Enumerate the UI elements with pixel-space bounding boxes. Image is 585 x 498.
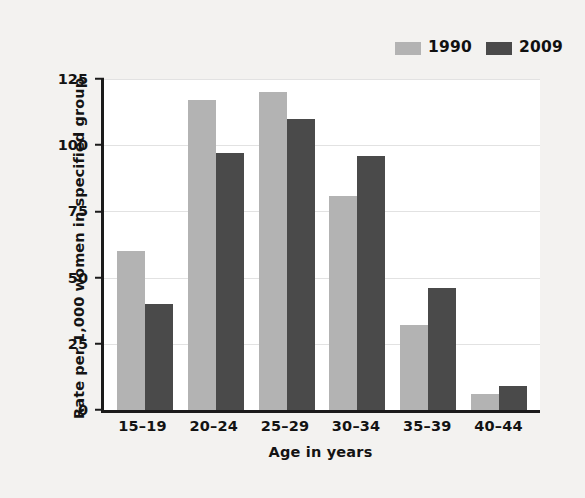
bar-2009-40-44[interactable] — [499, 386, 527, 410]
y-axis-tick-label: 100 — [58, 138, 95, 153]
bar-2009-15-19[interactable] — [145, 304, 173, 410]
bar-group — [181, 79, 252, 410]
bar-2009-25-29[interactable] — [287, 119, 315, 410]
plot-area: 0255075100125 — [101, 79, 540, 413]
bar-1990-30-34[interactable] — [329, 196, 357, 410]
y-axis-tick-mark — [95, 78, 104, 80]
y-axis-tick-mark — [95, 277, 104, 279]
y-axis-tick: 0 — [78, 403, 104, 418]
bar-2009-30-34[interactable] — [357, 156, 385, 410]
legend-label-1990: 1990 — [428, 40, 472, 56]
x-axis-tick-label: 20–24 — [178, 418, 249, 434]
y-axis-tick-mark — [95, 343, 104, 345]
bars-layer — [104, 79, 540, 410]
bar-group — [322, 79, 393, 410]
bar-group — [463, 79, 534, 410]
bar-2009-20-24[interactable] — [216, 153, 244, 410]
y-axis-tick-label: 50 — [68, 270, 95, 285]
y-axis-tick: 100 — [58, 138, 104, 153]
y-axis-tick: 25 — [68, 337, 104, 352]
y-axis-tick: 75 — [68, 204, 104, 219]
y-axis-tick-label: 75 — [68, 204, 95, 219]
x-axis-tick-label: 35–39 — [392, 418, 463, 434]
bar-group — [251, 79, 322, 410]
x-axis-tick-label: 25–29 — [249, 418, 320, 434]
legend-entry-1990: 1990 — [395, 40, 472, 56]
x-axis-title: Age in years — [101, 444, 540, 460]
x-axis-tick-label: 15–19 — [107, 418, 178, 434]
y-axis-tick-label: 25 — [68, 337, 95, 352]
y-axis-tick-label: 0 — [78, 403, 95, 418]
bar-1990-15-19[interactable] — [117, 251, 145, 410]
legend-swatch-1990 — [395, 42, 421, 55]
y-axis-tick-mark — [95, 409, 104, 411]
legend-swatch-2009 — [486, 42, 512, 55]
bar-1990-40-44[interactable] — [471, 394, 499, 410]
y-axis-tick: 125 — [58, 72, 104, 87]
bar-group — [393, 79, 464, 410]
legend-label-2009: 2009 — [519, 40, 563, 56]
bar-2009-35-39[interactable] — [428, 288, 456, 410]
bar-1990-20-24[interactable] — [188, 100, 216, 410]
y-axis-tick-mark — [95, 210, 104, 212]
x-axis-tick-label: 40–44 — [463, 418, 534, 434]
y-axis-tick-label: 125 — [58, 72, 95, 87]
x-axis-tick-label: 30–34 — [321, 418, 392, 434]
bar-1990-25-29[interactable] — [259, 92, 287, 410]
chart-legend: 1990 2009 — [395, 37, 563, 59]
y-axis-tick-mark — [95, 144, 104, 146]
chart-figure: 1990 2009 Rate per 1,000 women in specif… — [0, 0, 585, 498]
bar-group — [110, 79, 181, 410]
y-axis-tick: 50 — [68, 270, 104, 285]
legend-entry-2009: 2009 — [486, 40, 563, 56]
x-axis-tick-labels: 15–1920–2425–2930–3435–3940–44 — [101, 418, 540, 434]
bar-1990-35-39[interactable] — [400, 325, 428, 410]
